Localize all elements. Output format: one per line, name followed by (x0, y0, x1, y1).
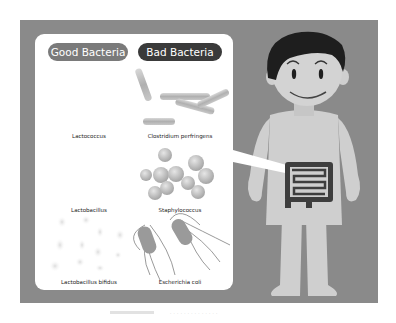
staphylococcus-label: Staphylococcus (135, 207, 225, 213)
staphylococcus-illustration (140, 148, 214, 200)
clostridium-label: Clostridium perfringens (135, 133, 225, 139)
lactobacillus-bifidus-label: Lactobacillus bifidus (44, 279, 134, 285)
escherichia-coli-label: Escherichia coli (135, 279, 225, 285)
bacteria-illustrations (0, 0, 396, 323)
lactococcus-label: Lactococcus (44, 133, 134, 139)
clostridium-illustration (134, 68, 230, 125)
lactobacillus-label: Lactobacillus (44, 207, 134, 213)
caption: · · · · · · · · · · · · · · (170, 311, 218, 316)
lactobacillus-bifidus-illustration (49, 215, 125, 272)
escherichia-coli-illustration (134, 214, 230, 280)
caption-bar (110, 311, 154, 314)
